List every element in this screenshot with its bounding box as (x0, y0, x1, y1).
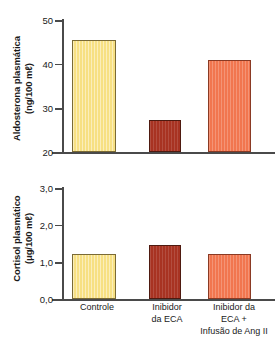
y-axis-line-aldosterone (62, 19, 64, 153)
y-axis-title-cortisol-line1: Cortisol plasmático (10, 195, 21, 281)
bar-aldosterone-inibidor-eca-ang2 (208, 60, 251, 152)
plot-area-cortisol: 3,0 2,0 1,0 0,0 (62, 188, 262, 299)
x-category-label-inibidor-eca: Inibidor da ECA (134, 301, 200, 325)
bar-cortisol-inibidor-eca-ang2 (208, 254, 251, 299)
y-axis-line-cortisol (62, 187, 64, 300)
x-category-label-controle: Controle (52, 301, 142, 313)
bar-aldosterone-controle (72, 40, 116, 152)
y-ticklabel-cortisol-1: 1,0 (40, 257, 53, 268)
y-ticklabel-aldosterone-20: 20 (42, 147, 53, 158)
y-axis-title-cortisol: Cortisol plasmático (μg/100 mℓ) (0, 178, 44, 299)
x-category-label-inibidor-eca-ang2: Inibidor da ECA + Infusão de Ang II (194, 301, 274, 337)
bar-cortisol-controle (72, 254, 116, 299)
y-axis-title-aldosterone-line2: (ng/100 mℓ) (22, 37, 34, 142)
plot-area-aldosterone: 50 40 30 20 (62, 20, 262, 152)
bar-cortisol-inibidor-eca (149, 245, 181, 299)
x-axis-category-labels: Controle Inibidor da ECA Inibidor da ECA… (52, 301, 274, 347)
y-axis-title-aldosterone: Aldosterona plasmática (ng/100 mℓ) (0, 0, 44, 178)
y-ticklabel-cortisol-3: 3,0 (40, 183, 53, 194)
bar-aldosterone-inibidor-eca (149, 120, 181, 152)
y-ticklabel-aldosterone-30: 30 (42, 103, 53, 114)
y-ticklabel-aldosterone-40: 40 (42, 58, 53, 69)
chart-aldosterone: Aldosterona plasmática (ng/100 mℓ) 50 40… (0, 0, 277, 178)
y-ticklabel-aldosterone-50: 50 (42, 15, 53, 26)
figure: Aldosterona plasmática (ng/100 mℓ) 50 40… (0, 0, 277, 349)
y-axis-title-cortisol-line2: (μg/100 mℓ) (22, 195, 34, 281)
y-ticklabel-cortisol-2: 2,0 (40, 219, 53, 230)
y-axis-title-aldosterone-line1: Aldosterona plasmática (10, 37, 21, 142)
